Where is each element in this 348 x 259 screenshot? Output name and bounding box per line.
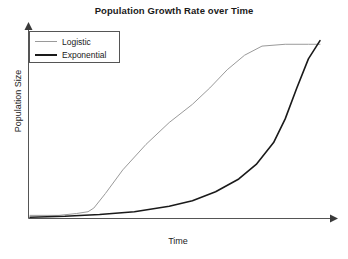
legend-label-exponential: Exponential — [62, 50, 106, 60]
legend-swatch-logistic — [35, 41, 57, 42]
legend-item-exponential: Exponential — [30, 48, 119, 61]
y-axis-arrowhead — [25, 22, 33, 30]
line-series-exponential — [30, 41, 320, 218]
line-series-logistic — [30, 44, 320, 215]
chart-legend: Logistic Exponential — [29, 31, 120, 63]
chart-figure: Population Growth Rate over Time Populat… — [0, 0, 348, 259]
x-axis-arrowhead — [330, 215, 338, 223]
legend-item-logistic: Logistic — [30, 35, 119, 48]
series-group — [30, 41, 320, 218]
legend-label-logistic: Logistic — [62, 37, 91, 47]
legend-swatch-exponential — [35, 54, 57, 56]
